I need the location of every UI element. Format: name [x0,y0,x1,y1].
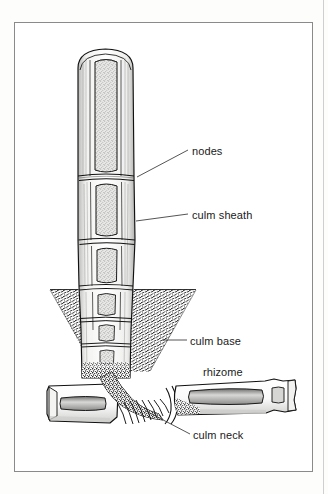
bamboo-anatomy-illustration [0,0,328,494]
figure-page: nodes culm sheath culm base rhizome culm… [0,0,328,494]
label-culm-sheath: culm sheath [192,209,252,221]
rhizome [47,372,296,424]
label-nodes: nodes [192,145,222,157]
label-culm-base: culm base [190,335,241,347]
bamboo-culm [78,49,135,380]
leader-line-nodes [137,150,188,177]
leader-line-culm-sheath [136,214,188,221]
label-culm-neck: culm neck [193,429,243,441]
label-rhizome: rhizome [203,366,243,378]
